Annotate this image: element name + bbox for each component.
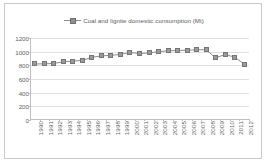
x-axis-tick-mark xyxy=(201,119,202,121)
x-axis-tick-mark xyxy=(173,119,174,121)
x-axis-tick-label: 2002 xyxy=(152,121,159,135)
data-point-marker xyxy=(118,52,123,57)
data-point-marker xyxy=(204,47,209,52)
y-axis-tick-label: 800 xyxy=(1,62,29,69)
x-axis: 1990199119921993199419951996199719981999… xyxy=(30,121,249,155)
x-axis-tick-mark xyxy=(87,119,88,121)
data-point-marker xyxy=(185,48,190,53)
chart-figure: Coal and lignite domestic consumption (M… xyxy=(0,0,268,164)
data-point-marker xyxy=(61,59,66,64)
x-axis-tick-mark xyxy=(40,119,41,121)
x-axis-tick-label: 2011 xyxy=(237,121,244,135)
x-axis-tick-label: 1991 xyxy=(47,121,54,135)
y-axis-tick-label: 200 xyxy=(1,103,29,110)
x-axis-tick-label: 2006 xyxy=(190,121,197,135)
data-point-marker xyxy=(99,53,104,58)
x-axis-tick-mark xyxy=(144,119,145,121)
data-point-marker xyxy=(175,48,180,53)
x-axis-tick-label: 2007 xyxy=(199,121,206,135)
x-axis-tick-mark xyxy=(68,119,69,121)
x-axis-tick-mark xyxy=(97,119,98,121)
data-point-marker xyxy=(32,61,37,66)
x-axis-tick-mark xyxy=(249,119,250,121)
x-axis-tick-label: 2001 xyxy=(142,121,149,135)
y-axis-tick-label: 600 xyxy=(1,76,29,83)
plot-area-wrapper xyxy=(30,38,249,120)
x-axis-tick-mark xyxy=(125,119,126,121)
x-axis-tick-label: 1996 xyxy=(94,121,101,135)
y-axis-tick-label: 0 xyxy=(1,117,29,124)
data-point-marker xyxy=(232,55,237,60)
x-axis-tick-mark xyxy=(163,119,164,121)
x-axis-tick-mark xyxy=(106,119,107,121)
data-point-marker xyxy=(194,47,199,52)
x-axis-tick-mark xyxy=(230,119,231,121)
data-point-marker xyxy=(156,49,161,54)
y-axis-tick-label: 1000 xyxy=(1,48,29,55)
data-point-marker xyxy=(127,50,132,55)
data-point-marker xyxy=(70,59,75,64)
x-axis-tick-label: 1993 xyxy=(66,121,73,135)
data-point-marker xyxy=(137,51,142,56)
x-axis-tick-label: 1994 xyxy=(75,121,82,135)
y-axis-tick-label: 1200 xyxy=(1,35,29,42)
data-point-marker xyxy=(42,61,47,66)
x-axis-tick-label: 1990 xyxy=(37,121,44,135)
data-point-marker xyxy=(108,53,113,58)
x-axis-tick-mark xyxy=(239,119,240,121)
x-axis-tick-mark xyxy=(78,119,79,121)
data-point-marker xyxy=(80,58,85,63)
x-axis-tick-label: 2009 xyxy=(218,121,225,135)
x-axis-tick-mark xyxy=(30,119,31,121)
y-axis-tick-label: 400 xyxy=(1,89,29,96)
x-axis-tick-label: 1998 xyxy=(114,121,121,135)
x-axis-tick-mark xyxy=(220,119,221,121)
x-axis-tick-mark xyxy=(116,119,117,121)
x-axis-tick-label: 2005 xyxy=(180,121,187,135)
data-point-marker xyxy=(89,55,94,60)
x-axis-tick-mark xyxy=(154,119,155,121)
y-axis: 020040060080010001200 xyxy=(0,38,29,120)
x-axis-tick-mark xyxy=(135,119,136,121)
x-axis-tick-label: 2000 xyxy=(133,121,140,135)
x-axis-tick-label: 1999 xyxy=(123,121,130,135)
x-axis-tick-label: 2012 xyxy=(247,121,254,135)
x-axis-tick-label: 1997 xyxy=(104,121,111,135)
data-point-marker xyxy=(51,61,56,66)
x-axis-tick-mark xyxy=(211,119,212,121)
x-axis-tick-label: 2010 xyxy=(228,121,235,135)
x-axis-tick-label: 2004 xyxy=(171,121,178,135)
data-point-marker xyxy=(223,52,228,57)
x-axis-tick-mark xyxy=(192,119,193,121)
x-axis-tick-label: 2003 xyxy=(161,121,168,135)
x-axis-tick-mark xyxy=(59,119,60,121)
data-point-marker xyxy=(242,62,247,67)
x-axis-tick-label: 1992 xyxy=(56,121,63,135)
x-axis-tick-mark xyxy=(182,119,183,121)
data-point-marker xyxy=(166,48,171,53)
x-axis-tick-label: 2008 xyxy=(209,121,216,135)
data-point-marker xyxy=(147,50,152,55)
x-axis-tick-label: 1995 xyxy=(85,121,92,135)
data-point-marker xyxy=(213,55,218,60)
x-axis-tick-mark xyxy=(49,119,50,121)
